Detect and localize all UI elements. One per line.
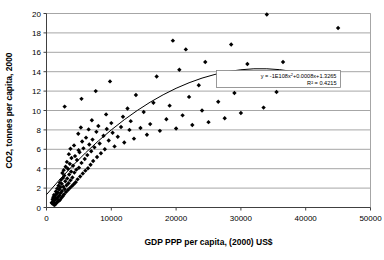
y-tick-label: 2 (37, 184, 42, 193)
y-tick-label: 16 (32, 48, 41, 57)
chart-canvas: 01000020000300004000050000 0246810121416… (0, 0, 384, 260)
y-tick-label: 4 (37, 165, 42, 174)
trendline-equation-box: y = -1E108x2+0.0008x+1.3265R² = 0.4215 (217, 71, 341, 88)
y-tick-label: 0 (37, 204, 42, 213)
x-tick-label: 40000 (295, 214, 318, 223)
y-tick-label: 8 (37, 126, 42, 135)
y-tick-label: 6 (37, 145, 42, 154)
trendline-equation-text: y = -1E108x2+0.0008x+1.3265 (261, 71, 337, 79)
y-tick-label: 18 (32, 29, 41, 38)
x-tick-label: 20000 (165, 214, 188, 223)
x-tick-label: 10000 (100, 214, 123, 223)
trendline-r2-text: R² = 0.4215 (307, 80, 336, 86)
x-tick-label: 30000 (230, 214, 253, 223)
scatter-chart: 01000020000300004000050000 0246810121416… (0, 0, 384, 260)
x-tick-label: 50000 (359, 214, 382, 223)
x-tick-label: 0 (44, 214, 49, 223)
x-axis-label: GDP PPP per capita, (2000) US$ (144, 237, 272, 247)
y-tick-label: 10 (32, 107, 41, 116)
y-tick-label: 14 (32, 68, 41, 77)
y-tick-label: 12 (32, 87, 41, 96)
y-axis-label: CO2, tonnes per capita, 2000 (4, 52, 14, 168)
y-tick-label: 20 (32, 10, 41, 19)
